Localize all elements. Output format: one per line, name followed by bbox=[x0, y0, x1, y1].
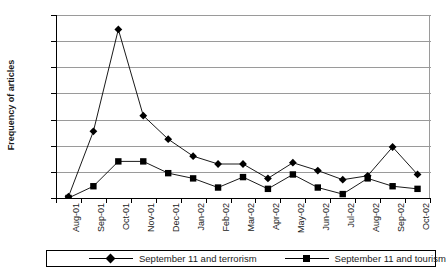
square-marker-icon bbox=[140, 158, 146, 164]
diamond-marker-icon bbox=[339, 176, 347, 184]
square-marker-icon bbox=[414, 186, 420, 192]
x-axis-tick-label: Nov-01 bbox=[147, 203, 156, 247]
x-axis-tick-label: Sep-01 bbox=[97, 203, 106, 247]
x-axis-tick-mark bbox=[81, 198, 82, 203]
diamond-marker-icon bbox=[289, 159, 297, 167]
x-axis-tick-mark bbox=[206, 198, 207, 203]
chart-legend: September 11 and terrorism September 11 … bbox=[46, 250, 436, 267]
x-axis-tick-label: Aug-01 bbox=[72, 203, 81, 247]
x-axis-tick-mark bbox=[56, 198, 57, 203]
diamond-marker-icon bbox=[264, 174, 272, 182]
legend-label-tourism: September 11 and tourism bbox=[335, 254, 446, 264]
series-line bbox=[68, 29, 417, 196]
x-axis-tick-label: Jun-02 bbox=[322, 203, 331, 247]
square-marker-icon bbox=[285, 253, 329, 264]
y-axis-title: Frequency of articles bbox=[0, 0, 22, 210]
x-axis-tick-label: Jul-02 bbox=[347, 203, 356, 247]
y-axis-title-text: Frequency of articles bbox=[6, 60, 16, 151]
square-marker-icon bbox=[65, 195, 71, 198]
square-marker-icon bbox=[115, 158, 121, 164]
diamond-marker-icon bbox=[114, 25, 122, 33]
x-axis-tick-mark bbox=[181, 198, 182, 203]
x-axis-tick-mark bbox=[156, 198, 157, 203]
x-axis-tick-label: Dec-01 bbox=[172, 203, 181, 247]
diamond-marker-icon bbox=[89, 253, 133, 264]
legend-label-terrorism: September 11 and terrorism bbox=[139, 254, 257, 264]
square-marker-icon bbox=[389, 183, 395, 189]
x-axis-tick-label: Apr-02 bbox=[272, 203, 281, 247]
square-marker-icon bbox=[340, 191, 346, 197]
diamond-marker-icon bbox=[239, 160, 247, 168]
x-axis-tick-mark bbox=[231, 198, 232, 203]
square-marker-icon bbox=[364, 175, 370, 181]
legend-entry-tourism: September 11 and tourism bbox=[285, 253, 446, 264]
diamond-marker-icon bbox=[314, 167, 322, 175]
x-axis-tick-label: Aug-02 bbox=[372, 203, 381, 247]
diamond-marker-icon bbox=[214, 160, 222, 168]
square-marker-icon bbox=[240, 174, 246, 180]
x-axis-tick-mark bbox=[106, 198, 107, 203]
x-axis-tick-mark bbox=[131, 198, 132, 203]
x-axis-tick-label: May-02 bbox=[297, 203, 306, 247]
legend-entry-terrorism: September 11 and terrorism bbox=[89, 253, 257, 264]
square-marker-icon bbox=[265, 186, 271, 192]
square-marker-icon bbox=[315, 184, 321, 190]
series-terrorism bbox=[65, 25, 422, 198]
x-axis-line bbox=[56, 198, 430, 199]
x-axis-tick-label: Mar-02 bbox=[247, 203, 256, 247]
diamond-marker-icon bbox=[189, 152, 197, 160]
square-marker-icon bbox=[190, 175, 196, 181]
square-marker-icon bbox=[290, 171, 296, 177]
x-axis-tick-label: Oct-02 bbox=[422, 203, 431, 247]
square-marker-icon bbox=[165, 170, 171, 176]
x-axis-tick-label: Sep-02 bbox=[397, 203, 406, 247]
x-axis-tick-label: Feb-02 bbox=[222, 203, 231, 247]
square-marker-icon bbox=[90, 183, 96, 189]
diamond-marker-icon bbox=[90, 127, 98, 135]
x-axis-tick-label: Jan-02 bbox=[197, 203, 206, 247]
square-marker-icon bbox=[215, 184, 221, 190]
series-plot bbox=[56, 15, 430, 198]
x-axis-tick-label: Oct-01 bbox=[122, 203, 131, 247]
